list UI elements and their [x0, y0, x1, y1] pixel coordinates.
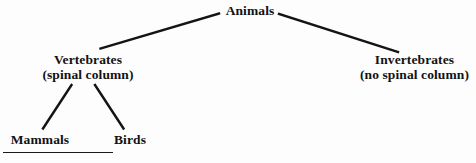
horizontal-rule: [3, 152, 113, 153]
edge-vertebrates-to-mammals: [43, 85, 72, 129]
node-vertebrates: Vertebrates (spinal column): [27, 52, 149, 82]
edge-animals-to-invertebrates: [279, 14, 398, 52]
node-vertebrates-label: Vertebrates: [27, 52, 149, 67]
node-vertebrates-sublabel: (spinal column): [27, 67, 149, 82]
node-invertebrates-label: Invertebrates: [353, 52, 476, 67]
edge-animals-to-vertebrates: [101, 14, 220, 49]
node-birds-label: Birds: [100, 132, 160, 147]
node-mammals: Mammals: [0, 132, 80, 147]
node-invertebrates: Invertebrates (no spinal column): [353, 52, 476, 82]
edge-vertebrates-to-birds: [95, 85, 124, 129]
classification-diagram: Animals Vertebrates (spinal column) Inve…: [0, 0, 476, 163]
node-mammals-label: Mammals: [0, 132, 80, 147]
node-birds: Birds: [100, 132, 160, 147]
node-animals: Animals: [182, 3, 318, 18]
node-animals-label: Animals: [182, 3, 318, 18]
node-invertebrates-sublabel: (no spinal column): [353, 67, 476, 82]
